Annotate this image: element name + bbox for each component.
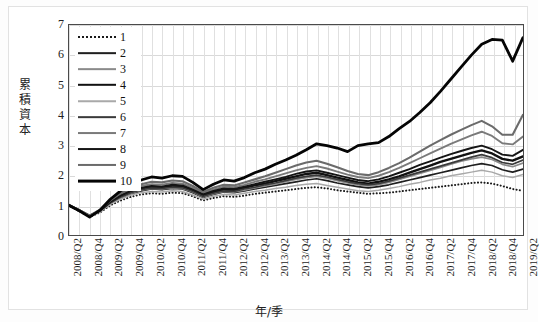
x-axis-tick: 2008/Q4	[93, 238, 104, 277]
x-axis-tick: 2010/Q4	[176, 238, 187, 277]
legend-item-label: 10	[120, 175, 132, 187]
x-axis-tick: 2018/Q4	[507, 238, 518, 277]
x-axis-tick: 2011/Q4	[217, 238, 228, 276]
legend-line-swatch	[77, 79, 117, 91]
y-axis-tick: 1	[40, 200, 64, 212]
legend-line-swatch	[77, 159, 117, 171]
x-axis-title: 年/季	[0, 302, 538, 319]
legend-item[interactable]: 3	[77, 61, 139, 77]
x-axis-tick: 2012/Q2	[238, 238, 249, 277]
x-axis-tick: 2010/Q2	[155, 238, 166, 277]
legend-item-label: 2	[120, 47, 126, 59]
x-axis-tick: 2019/Q2	[528, 238, 539, 277]
legend-item[interactable]: 8	[77, 141, 139, 157]
legend-item[interactable]: 5	[77, 93, 139, 109]
legend-item-label: 6	[120, 111, 126, 123]
legend-item-label: 4	[120, 79, 126, 91]
y-axis-tick: 2	[40, 169, 64, 181]
legend-item[interactable]: 9	[77, 157, 139, 173]
legend-item[interactable]: 7	[77, 125, 139, 141]
x-axis-tick: 2017/Q4	[466, 238, 477, 277]
x-axis-tick: 2017/Q2	[445, 238, 456, 277]
legend-item-label: 8	[120, 143, 126, 155]
legend-line-swatch	[77, 127, 117, 139]
legend-item-label: 1	[120, 31, 126, 43]
x-axis-tick: 2009/Q4	[134, 238, 145, 277]
y-axis-tick-labels: 01234567	[40, 24, 64, 236]
legend-line-swatch	[77, 111, 117, 123]
legend-item-label: 3	[120, 63, 126, 75]
y-axis-tick: 7	[40, 18, 64, 30]
x-axis-tick-labels: 2008/Q22008/Q42009/Q22009/Q42010/Q22010/…	[68, 238, 524, 300]
x-axis-tick: 2009/Q2	[113, 238, 124, 277]
x-axis-tick: 2014/Q2	[321, 238, 332, 277]
legend-line-swatch	[77, 31, 117, 43]
legend-item-label: 7	[120, 127, 126, 139]
y-axis-title: 累積資本	[16, 78, 34, 138]
x-axis-tick: 2015/Q4	[383, 238, 394, 277]
legend-item[interactable]: 4	[77, 77, 139, 93]
x-axis-tick: 2013/Q4	[300, 238, 311, 277]
y-axis-tick: 5	[40, 79, 64, 91]
legend-line-swatch	[77, 47, 117, 59]
chart-legend: 12345678910	[75, 27, 141, 191]
legend-line-swatch	[77, 63, 117, 75]
x-axis-tick: 2018/Q2	[487, 238, 498, 277]
legend-item-label: 5	[120, 95, 126, 107]
y-axis-tick: 3	[40, 139, 64, 151]
y-axis-tick: 0	[40, 230, 64, 242]
x-axis-tick: 2008/Q2	[72, 238, 83, 277]
legend-item[interactable]: 1	[77, 29, 139, 45]
x-axis-tick: 2013/Q2	[279, 238, 290, 277]
legend-line-swatch	[77, 143, 117, 155]
x-axis-tick: 2014/Q4	[341, 238, 352, 277]
y-axis-tick: 6	[40, 48, 64, 60]
legend-item-label: 9	[120, 159, 126, 171]
legend-line-swatch	[77, 175, 117, 187]
y-axis-tick: 4	[40, 109, 64, 121]
legend-item[interactable]: 10	[77, 173, 139, 189]
legend-line-swatch	[77, 95, 117, 107]
x-axis-tick: 2015/Q2	[362, 238, 373, 277]
x-axis-tick: 2016/Q2	[404, 238, 415, 277]
legend-item[interactable]: 2	[77, 45, 139, 61]
x-axis-tick: 2016/Q4	[424, 238, 435, 277]
x-axis-tick: 2011/Q2	[196, 238, 207, 276]
legend-item[interactable]: 6	[77, 109, 139, 125]
x-axis-tick: 2012/Q4	[259, 238, 270, 277]
